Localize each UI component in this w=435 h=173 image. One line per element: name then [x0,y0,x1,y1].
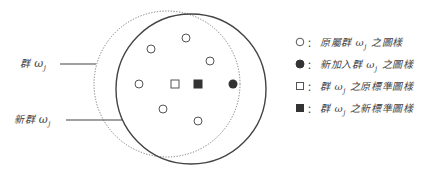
legend-separator: ： [307,79,317,94]
omega-symbol: ω [34,57,43,70]
legend-text: 原屬群 ωj 之圖樣 [320,34,403,51]
open-square-icon [295,81,305,91]
legend-text: 新加入群 ωj 之圖樣 [320,56,413,73]
original-member-point [147,45,155,53]
open-circle-icon [295,37,305,47]
filled-square-icon [295,103,305,113]
filled-circle-icon [295,59,305,69]
new-prototype-point [194,80,203,89]
omega-symbol: ω [39,113,48,126]
legend-text: 群 ωj 之原標準圖樣 [320,78,413,95]
subscript-j: j [44,64,47,72]
new-cluster-label-prefix: 新群 [14,114,35,125]
subscript-j: j [48,120,51,128]
original-member-point [194,117,202,125]
legend-item-new-prototype: ： 群 ωj 之新標準圖樣 [295,97,413,119]
legend: ： 原屬群 ωj 之圖樣 ： 新加入群 ωj 之圖樣 ： 群 ωj 之原標準圖樣… [295,31,413,119]
original-member-point [159,105,167,113]
new-cluster-label: 新群 ωj [14,111,51,128]
original-prototype-point [171,80,179,88]
legend-separator: ： [307,35,317,50]
new-member-point [229,80,238,89]
legend-item-original-member: ： 原屬群 ωj 之圖樣 [295,31,413,53]
legend-separator: ： [307,101,317,116]
original-member-point [182,34,190,42]
original-member-point [135,80,143,88]
old-cluster-label-prefix: 群 [20,58,31,69]
old-cluster-label: 群 ωj [20,55,46,72]
legend-text: 群 ωj 之新標準圖樣 [320,100,413,117]
data-points [135,34,238,125]
legend-item-new-member: ： 新加入群 ωj 之圖樣 [295,53,413,75]
original-member-point [206,57,214,65]
new-cluster-boundary-solid [116,14,266,164]
legend-item-original-prototype: ： 群 ωj 之原標準圖樣 [295,75,413,97]
legend-separator: ： [307,57,317,72]
